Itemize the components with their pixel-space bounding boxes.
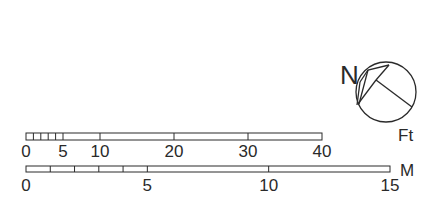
meter-scale-bar — [26, 166, 390, 172]
feet-tick-label: 10 — [91, 142, 110, 161]
feet-unit-label: Ft — [398, 126, 413, 145]
scale-diagram: N 0510203040 Ft 051015 M — [0, 0, 436, 202]
feet-tick-label: 0 — [21, 142, 30, 161]
north-arrow-top-edge — [360, 65, 389, 82]
feet-tick-label: 20 — [165, 142, 184, 161]
feet-scale-bar — [26, 133, 322, 140]
feet-tick-label: 30 — [239, 142, 258, 161]
north-arrow-radius — [376, 80, 412, 107]
north-arrow-pointer-lower — [358, 80, 376, 104]
north-label: N — [340, 60, 359, 90]
feet-scale-labels: 0510203040 — [21, 142, 331, 161]
meter-unit-label: M — [400, 161, 414, 180]
north-arrow — [356, 62, 416, 122]
meter-scale-labels: 051015 — [21, 176, 399, 195]
meter-bar-outline — [26, 166, 390, 172]
north-arrow-circle — [356, 62, 416, 122]
feet-tick-label: 5 — [58, 142, 67, 161]
meter-tick-label: 15 — [381, 176, 400, 195]
north-arrow-inner-edge — [359, 70, 368, 104]
feet-tick-label: 40 — [313, 142, 332, 161]
meter-tick-label: 10 — [259, 176, 278, 195]
meter-tick-label: 0 — [21, 176, 30, 195]
meter-tick-label: 5 — [143, 176, 152, 195]
